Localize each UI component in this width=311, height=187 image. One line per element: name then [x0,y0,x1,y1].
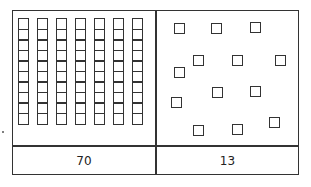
unit-cube [174,23,185,34]
rod-cell [37,113,48,125]
tens-value-label: 70 [12,146,156,175]
unit-cube [232,124,243,135]
unit-cube [250,22,261,33]
rod-cell [56,113,67,125]
ones-value-label: 13 [156,146,299,175]
unit-cube [232,55,243,66]
unit-cube [193,125,204,136]
ten-rod [132,18,143,125]
unit-cube [250,86,261,97]
rod-cell [18,113,29,125]
unit-cube [275,55,286,66]
unit-cube [269,117,280,128]
unit-cube [171,97,182,108]
ten-rod [94,18,105,125]
unit-cube [174,67,185,78]
unit-cube [193,55,204,66]
unit-cube [212,87,223,98]
unit-cube [211,23,222,34]
ten-rod [37,18,48,125]
ten-rod [113,18,124,125]
rod-cell [113,113,124,125]
ten-rod [56,18,67,125]
rod-cell [132,113,143,125]
ten-rod [75,18,86,125]
rod-cell [94,113,105,125]
ten-rod [18,18,29,125]
rod-cell [75,113,86,125]
stray-dot [2,131,4,133]
